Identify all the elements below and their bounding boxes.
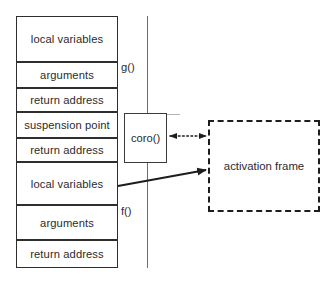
stack-row-f-return-address: return address [16,240,118,268]
coro-box: coro() [124,113,167,163]
frame-label-g: g() [121,61,135,73]
stack-row-label: suspension point [24,119,110,131]
frame-label-text: g() [121,61,135,73]
frame-label-f: f() [121,205,132,217]
stack-row-label: local variables [31,178,103,190]
stack-row-g-arguments: arguments [16,62,118,88]
activation-frame-box: activation frame [208,120,320,212]
coro-box-label: coro() [131,132,160,144]
stack-row-label: arguments [40,217,94,229]
stack-row-g-local-variables: local variables [16,16,118,62]
stack-row-g-return-address: return address [16,88,118,112]
frame-label-text: f() [121,205,132,217]
stack-row-label: return address [30,144,104,156]
stack-row-label: local variables [31,33,103,45]
stack-row-label: return address [30,94,104,106]
activation-frame-label: activation frame [224,160,304,172]
stack-row-coro-return-address: return address [16,138,118,162]
stack-row-label: return address [30,248,104,260]
stack-row-f-local-variables: local variables [16,162,118,205]
stack-row-suspension-point: suspension point [16,112,118,138]
stack-row-f-arguments: arguments [16,205,118,240]
stack-activation-frame-diagram: local variables arguments return address… [0,0,332,282]
stack-row-label: arguments [40,69,94,81]
